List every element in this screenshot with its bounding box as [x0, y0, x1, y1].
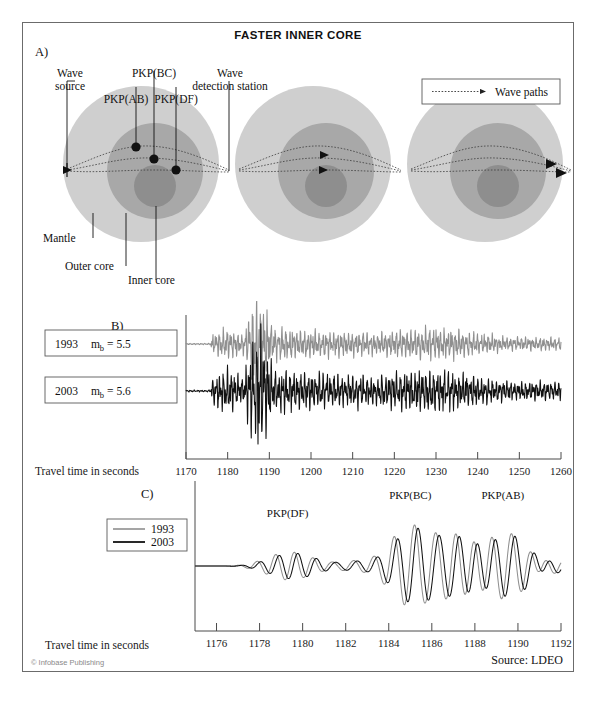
- panel-b-traces: [186, 301, 561, 444]
- panel-c-phase-label: PKP(DF): [267, 507, 309, 520]
- wave-detection-station-label: Wave detection station: [175, 67, 285, 93]
- trace-1993-mag-prefix: m: [91, 338, 100, 350]
- panel-b-ticks: [186, 452, 561, 459]
- panel-c-tick-label: 1182: [335, 637, 357, 649]
- panel-c-tick-label: 1178: [249, 637, 271, 649]
- wave-paths-legend-label: Wave paths: [495, 86, 549, 99]
- legend-label-2003: 2003: [151, 536, 174, 548]
- panel-c-phase-label: PKP(AB): [481, 489, 524, 502]
- inner-core-layer-2: [305, 165, 347, 207]
- inner-core-layer-3: [477, 165, 519, 207]
- panel-c-tick-label: 1192: [550, 637, 572, 649]
- panel-c-traces: [195, 525, 561, 605]
- wave-source-label: Wave source: [41, 67, 99, 93]
- figure-frame: FASTER INNER CORE A) B) C): [22, 22, 574, 672]
- legend-label-1993: 1993: [151, 523, 174, 535]
- panel-c-legend: 1993 2003: [107, 519, 187, 551]
- trace-2003-mag-value: = 5.6: [107, 385, 131, 397]
- outer-core-label: Outer core: [65, 260, 141, 273]
- globe-3: [407, 86, 571, 242]
- copyright-notice: © Infobase Publishing: [31, 658, 104, 667]
- panel-c-phase-label: PKP(BC): [389, 489, 432, 502]
- panel-c-tick-label: 1188: [464, 637, 486, 649]
- trace-2003-mag-prefix: m: [91, 385, 100, 397]
- mantle-label: Mantle: [43, 232, 105, 245]
- trace-2003-year: 2003: [55, 385, 78, 397]
- inner-core-layer-1: [134, 165, 176, 207]
- panel-c-tick-labels: 117611781180118211841186118811901192: [206, 637, 572, 649]
- panel-c-ticks: [217, 623, 561, 631]
- trace-label-2003: 2003 mb= 5.6: [45, 377, 177, 403]
- trace-label-1993: 1993 mb= 5.5: [45, 330, 177, 356]
- panel-c-tick-label: 1190: [507, 637, 529, 649]
- panel-b-chart: 1993 mb= 5.5 2003 mb= 5.6 Travel time in…: [23, 301, 575, 481]
- pkp-df-label: PKP(DF): [145, 93, 207, 106]
- panel-c-tick-label: 1176: [206, 637, 228, 649]
- trace-2003-mag-sub: b: [100, 390, 104, 400]
- panel-c-chart: 1993 2003 PKP(DF)PKP(BC)PKP(AB) Travel t…: [23, 471, 575, 671]
- panel-c-axis-caption: Travel time in seconds: [45, 639, 150, 651]
- inner-core-label: Inner core: [128, 274, 204, 287]
- panel-c-tick-label: 1184: [378, 637, 400, 649]
- panel-c-tick-label: 1186: [421, 637, 443, 649]
- panel-c-tick-label: 1180: [292, 637, 314, 649]
- panel-c-phase-labels: PKP(DF)PKP(BC)PKP(AB): [267, 489, 525, 520]
- panel-a-diagram: Wave paths: [23, 23, 575, 295]
- trace-1993-year: 1993: [55, 338, 78, 350]
- wave-paths-legend: Wave paths: [422, 79, 560, 104]
- trace-1993-mag-value: = 5.5: [107, 338, 131, 350]
- trace-1993-mag-sub: b: [100, 343, 104, 353]
- globe-2: [235, 86, 401, 242]
- source-credit: Source: LDEO: [491, 653, 563, 668]
